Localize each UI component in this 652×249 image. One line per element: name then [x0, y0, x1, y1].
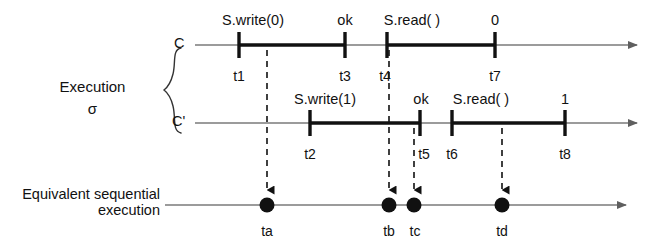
op-label-t4: S.read( ): [384, 13, 440, 28]
op-label-t7: 0: [491, 13, 499, 28]
process-name-cprime: C': [172, 114, 185, 129]
execution-label: Execution: [30, 79, 155, 94]
sequential-label-tb: tb: [383, 224, 395, 238]
timeline-equivalent-sequential: [165, 198, 626, 213]
process-name-c: C: [174, 36, 184, 51]
op-label-t6: S.read( ): [453, 92, 509, 107]
op-label-t2: S.write(1): [294, 92, 356, 107]
op-label-t1: S.write(0): [222, 13, 284, 28]
timeline-c: [195, 32, 637, 58]
op-label-t8: 1: [561, 92, 569, 107]
sequential-point-tb: [382, 198, 397, 213]
time-label-t4: t4: [379, 69, 391, 83]
equivalent-sequential-label-line2: execution: [8, 200, 160, 221]
op-label-t3: ok: [337, 13, 352, 28]
time-label-t2: t2: [304, 147, 316, 161]
timeline-cprime: [195, 110, 637, 136]
time-label-t3: t3: [339, 69, 351, 83]
sequential-label-ta: ta: [261, 224, 273, 238]
sequential-point-td: [495, 198, 510, 213]
time-label-t1: t1: [233, 69, 245, 83]
time-label-t6: t6: [446, 147, 458, 161]
op-label-t5: ok: [413, 92, 428, 107]
time-label-t5: t5: [418, 147, 430, 161]
sequential-point-ta: [260, 198, 275, 213]
sequential-point-tc: [407, 198, 422, 213]
execution-sigma-label: σ: [30, 101, 155, 116]
sequential-label-td: td: [496, 224, 508, 238]
sequential-label-tc: tc: [410, 224, 421, 238]
time-label-t7: t7: [489, 69, 501, 83]
time-label-t8: t8: [559, 147, 571, 161]
